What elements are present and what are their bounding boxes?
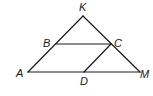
label-M: M xyxy=(140,68,150,80)
label-D: D xyxy=(80,75,88,87)
segment-CD xyxy=(84,44,111,72)
label-C: C xyxy=(114,37,122,49)
label-K: K xyxy=(79,1,87,13)
label-A: A xyxy=(15,67,23,79)
geometry-diagram: K A M B C D xyxy=(0,0,153,96)
label-B: B xyxy=(43,37,50,49)
